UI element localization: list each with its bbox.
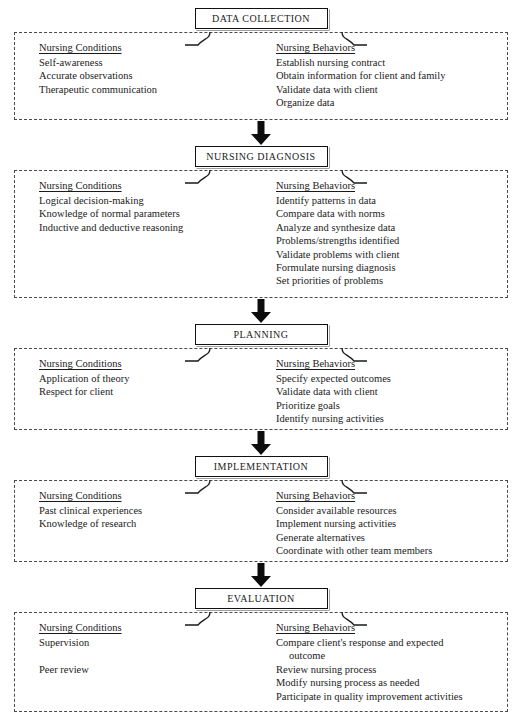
- nursing-behaviors-heading: Nursing Behaviors: [276, 622, 507, 633]
- nursing-conditions-list-item: Therapeutic communication: [39, 83, 270, 96]
- nursing-conditions-column: Nursing ConditionsLogical decision-makin…: [15, 180, 270, 288]
- nursing-behaviors-column: Nursing BehaviorsCompare client's respon…: [270, 622, 507, 703]
- stage-panel-implementation: Nursing ConditionsPast clinical experien…: [14, 480, 508, 562]
- stage-header-planning[interactable]: PLANNING: [195, 324, 328, 345]
- nursing-conditions-list: Application of theoryRespect for client: [39, 372, 270, 399]
- nursing-behaviors-list-item: Organize data: [276, 96, 507, 109]
- stage-panel-nursing-diagnosis: Nursing ConditionsLogical decision-makin…: [14, 170, 508, 298]
- nursing-behaviors-list-item: Establish nursing contract: [276, 56, 507, 69]
- stage-nursing-diagnosis: NURSING DIAGNOSISNursing ConditionsLogic…: [0, 146, 522, 298]
- nursing-behaviors-list-item: Prioritize goals: [276, 399, 507, 412]
- nursing-behaviors-column: Nursing BehaviorsConsider available reso…: [270, 490, 507, 558]
- nursing-conditions-column: Nursing ConditionsPast clinical experien…: [15, 490, 270, 558]
- nursing-behaviors-list-item: Identify patterns in data: [276, 194, 507, 207]
- nursing-conditions-list: Logical decision-makingKnowledge of norm…: [39, 194, 270, 234]
- top-spacer: [0, 0, 522, 8]
- stage-planning: PLANNINGNursing ConditionsApplication of…: [0, 324, 522, 430]
- nursing-conditions-list-item: Respect for client: [39, 385, 270, 398]
- stage-header-implementation[interactable]: IMPLEMENTATION: [195, 456, 328, 477]
- nursing-behaviors-list-item: Set priorities of problems: [276, 274, 507, 287]
- stage-panel-inner: Nursing ConditionsApplication of theoryR…: [15, 349, 507, 435]
- nursing-behaviors-column: Nursing BehaviorsEstablish nursing contr…: [270, 42, 507, 110]
- nursing-behaviors-list-item: Coordinate with other team members: [276, 544, 507, 557]
- down-arrow-icon: [250, 299, 272, 323]
- nursing-behaviors-list-item: Compare client's response and expectedou…: [276, 636, 507, 663]
- nursing-behaviors-list: Consider available resourcesImplement nu…: [276, 504, 507, 558]
- nursing-conditions-column: Nursing ConditionsSupervisionPeer review: [15, 622, 270, 703]
- nursing-conditions-column: Nursing ConditionsSelf-awarenessAccurate…: [15, 42, 270, 110]
- nursing-behaviors-heading: Nursing Behaviors: [276, 180, 507, 191]
- stage-panel-planning: Nursing ConditionsApplication of theoryR…: [14, 348, 508, 430]
- stage-panel-inner: Nursing ConditionsSupervisionPeer review…: [15, 613, 507, 712]
- nursing-behaviors-list-item: Formulate nursing diagnosis: [276, 261, 507, 274]
- nursing-conditions-list-item: Past clinical experiences: [39, 504, 270, 517]
- nursing-behaviors-list-item: Specify expected outcomes: [276, 372, 507, 385]
- nursing-behaviors-heading: Nursing Behaviors: [276, 490, 507, 501]
- nursing-conditions-heading: Nursing Conditions: [39, 622, 270, 633]
- stage-data-collection: DATA COLLECTIONNursing ConditionsSelf-aw…: [0, 8, 522, 120]
- nursing-behaviors-list-item: Validate problems with client: [276, 248, 507, 261]
- stage-implementation: IMPLEMENTATIONNursing ConditionsPast cli…: [0, 456, 522, 562]
- stage-header-wrap: IMPLEMENTATION: [0, 456, 522, 480]
- nursing-conditions-list-item: Self-awareness: [39, 56, 270, 69]
- stage-connector-arrow: [0, 298, 522, 324]
- nursing-conditions-heading: Nursing Conditions: [39, 42, 270, 53]
- nursing-conditions-list-item: Knowledge of research: [39, 517, 270, 530]
- stage-evaluation: EVALUATIONNursing ConditionsSupervisionP…: [0, 588, 522, 712]
- stage-connector-arrow: [0, 562, 522, 588]
- down-arrow-icon: [250, 121, 272, 145]
- nursing-behaviors-list-item: Implement nursing activities: [276, 517, 507, 530]
- down-arrow-icon: [250, 563, 272, 587]
- stage-header-data-collection[interactable]: DATA COLLECTION: [195, 8, 328, 29]
- down-arrow-icon: [250, 431, 272, 455]
- nursing-conditions-list-item: Logical decision-making: [39, 194, 270, 207]
- nursing-conditions-list-item: Supervision: [39, 636, 270, 649]
- nursing-behaviors-heading: Nursing Behaviors: [276, 358, 507, 369]
- nursing-conditions-list: Past clinical experiencesKnowledge of re…: [39, 504, 270, 531]
- stage-connector-arrow: [0, 120, 522, 146]
- nursing-behaviors-list: Establish nursing contractObtain informa…: [276, 56, 507, 110]
- nursing-behaviors-list-item: Identify nursing activities: [276, 412, 507, 425]
- stage-panel-data-collection: Nursing ConditionsSelf-awarenessAccurate…: [14, 32, 508, 120]
- nursing-behaviors-heading: Nursing Behaviors: [276, 42, 507, 53]
- nursing-conditions-heading: Nursing Conditions: [39, 180, 270, 191]
- nursing-behaviors-list-item: Consider available resources: [276, 504, 507, 517]
- nursing-behaviors-list: Identify patterns in dataCompare data wi…: [276, 194, 507, 288]
- nursing-behaviors-list: Specify expected outcomesValidate data w…: [276, 372, 507, 426]
- nursing-behaviors-list-item: Participate in quality improvement activ…: [276, 690, 507, 703]
- nursing-conditions-list: SupervisionPeer review: [39, 636, 270, 676]
- stage-header-wrap: DATA COLLECTION: [0, 8, 522, 32]
- nursing-conditions-list-item: Inductive and deductive reasoning: [39, 221, 270, 234]
- stage-header-nursing-diagnosis[interactable]: NURSING DIAGNOSIS: [195, 146, 328, 167]
- nursing-conditions-list-item: Application of theory: [39, 372, 270, 385]
- nursing-behaviors-list: Compare client's response and expectedou…: [276, 636, 507, 703]
- stage-header-wrap: EVALUATION: [0, 588, 522, 612]
- nursing-conditions-list-item: Peer review: [39, 663, 270, 676]
- nursing-behaviors-list-item: Obtain information for client and family: [276, 69, 507, 82]
- nursing-conditions-list: Self-awarenessAccurate observationsThera…: [39, 56, 270, 96]
- nursing-behaviors-list-item: Validate data with client: [276, 385, 507, 398]
- nursing-behaviors-list-item: Analyze and synthesize data: [276, 221, 507, 234]
- nursing-behaviors-column: Nursing BehaviorsSpecify expected outcom…: [270, 358, 507, 426]
- stage-connector-arrow: [0, 430, 522, 456]
- nursing-behaviors-list-item: Problems/strengths identified: [276, 234, 507, 247]
- stage-panel-inner: Nursing ConditionsSelf-awarenessAccurate…: [15, 33, 507, 119]
- nursing-conditions-heading: Nursing Conditions: [39, 490, 270, 501]
- nursing-behaviors-list-item: Generate alternatives: [276, 531, 507, 544]
- stage-panel-inner: Nursing ConditionsLogical decision-makin…: [15, 171, 507, 297]
- nursing-conditions-list-item: Knowledge of normal parameters: [39, 207, 270, 220]
- stage-header-evaluation[interactable]: EVALUATION: [195, 588, 328, 609]
- nursing-behaviors-list-item: Compare data with norms: [276, 207, 507, 220]
- stage-panel-inner: Nursing ConditionsPast clinical experien…: [15, 481, 507, 567]
- nursing-process-diagram: DATA COLLECTIONNursing ConditionsSelf-aw…: [0, 0, 522, 719]
- nursing-behaviors-column: Nursing BehaviorsIdentify patterns in da…: [270, 180, 507, 288]
- stage-header-wrap: PLANNING: [0, 324, 522, 348]
- stage-panel-evaluation: Nursing ConditionsSupervisionPeer review…: [14, 612, 508, 712]
- nursing-behaviors-list-item: Review nursing process: [276, 663, 507, 676]
- nursing-behaviors-list-item: Modify nursing process as needed: [276, 676, 507, 689]
- nursing-conditions-heading: Nursing Conditions: [39, 358, 270, 369]
- nursing-behaviors-list-item-continuation: outcome: [276, 649, 507, 662]
- stage-header-wrap: NURSING DIAGNOSIS: [0, 146, 522, 170]
- nursing-conditions-column: Nursing ConditionsApplication of theoryR…: [15, 358, 270, 426]
- nursing-conditions-list-spacer: [39, 649, 270, 662]
